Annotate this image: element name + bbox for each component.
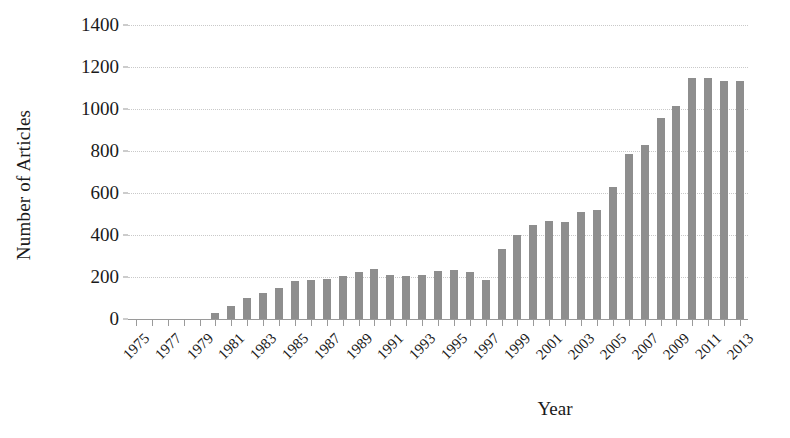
x-tick-label-1993: 1993	[406, 330, 439, 363]
bar-1984	[275, 288, 283, 320]
bar-2002	[561, 222, 569, 319]
x-tick-label-1977: 1977	[152, 330, 185, 363]
x-tick-mark-1977	[168, 320, 169, 326]
x-tick-mark-1999	[517, 320, 518, 326]
x-tick-label-1997: 1997	[469, 330, 502, 363]
x-tick-mark-1994	[438, 320, 439, 326]
bar-2007	[641, 145, 649, 319]
x-tick-mark-1985	[295, 320, 296, 326]
bar-1996	[466, 272, 474, 319]
x-tick-mark-1986	[311, 320, 312, 326]
bar-1981	[227, 306, 235, 319]
bar-2004	[593, 210, 601, 319]
y-tick-label-1200: 1200	[81, 56, 119, 78]
x-tick-label-1979: 1979	[183, 330, 216, 363]
bar-1992	[402, 276, 410, 319]
x-tick-mark-2005	[613, 320, 614, 326]
y-tick-label-0: 0	[110, 308, 120, 330]
bar-2000	[529, 225, 537, 320]
bar-2005	[609, 187, 617, 319]
bar-1985	[291, 281, 299, 319]
plot-area: 0200400600800100012001400	[128, 25, 748, 319]
bar-1994	[434, 271, 442, 319]
bar-2013	[736, 81, 744, 319]
x-tick-label-1991: 1991	[374, 330, 407, 363]
x-tick-label-2011: 2011	[692, 330, 725, 363]
x-tick-label-2005: 2005	[597, 330, 630, 363]
x-tick-mark-2000	[533, 320, 534, 326]
x-tick-mark-1988	[343, 320, 344, 326]
bar-2008	[657, 118, 665, 319]
bar-1983	[259, 293, 267, 319]
bar-1998	[498, 249, 506, 319]
bar-2010	[688, 78, 696, 320]
bar-1991	[386, 275, 394, 319]
x-tick-mark-1978	[184, 320, 185, 326]
x-tick-mark-1987	[327, 320, 328, 326]
x-tick-mark-1996	[470, 320, 471, 326]
x-tick-mark-2001	[549, 320, 550, 326]
x-tick-label-1989: 1989	[342, 330, 375, 363]
x-tick-mark-1997	[486, 320, 487, 326]
bar-2001	[545, 221, 553, 319]
x-tick-mark-2003	[581, 320, 582, 326]
bar-series	[128, 25, 748, 319]
bar-2006	[625, 154, 633, 319]
x-tick-mark-1991	[390, 320, 391, 326]
x-tick-mark-1983	[263, 320, 264, 326]
y-tick-label-200: 200	[91, 266, 120, 288]
x-axis-title-text: Year	[537, 398, 572, 419]
x-tick-mark-2012	[724, 320, 725, 326]
bar-1999	[513, 235, 521, 319]
bar-2011	[704, 78, 712, 320]
y-tick-label-400: 400	[91, 224, 120, 246]
x-tick-mark-2010	[692, 320, 693, 326]
x-tick-mark-2007	[645, 320, 646, 326]
x-axis: 1975197719791981198319851987198919911993…	[128, 319, 748, 320]
x-tick-mark-1979	[200, 320, 201, 326]
bar-1997	[482, 280, 490, 319]
x-tick-label-2003: 2003	[565, 330, 598, 363]
x-tick-mark-2008	[661, 320, 662, 326]
x-axis-title: Year	[0, 398, 790, 420]
x-tick-label-1999: 1999	[501, 330, 534, 363]
x-tick-label-1987: 1987	[310, 330, 343, 363]
x-tick-mark-1984	[279, 320, 280, 326]
x-tick-label-2013: 2013	[724, 330, 757, 363]
x-tick-mark-2009	[676, 320, 677, 326]
x-tick-label-1995: 1995	[438, 330, 471, 363]
y-tick-label-1000: 1000	[81, 98, 119, 120]
bar-1987	[323, 279, 331, 319]
x-tick-mark-1993	[422, 320, 423, 326]
x-tick-label-1975: 1975	[120, 330, 153, 363]
bar-1989	[355, 272, 363, 319]
x-tick-label-2009: 2009	[660, 330, 693, 363]
x-tick-mark-1975	[136, 320, 137, 326]
x-tick-mark-1990	[374, 320, 375, 326]
bar-1993	[418, 275, 426, 319]
x-tick-mark-1980	[215, 320, 216, 326]
x-tick-label-2007: 2007	[628, 330, 661, 363]
x-tick-mark-2006	[629, 320, 630, 326]
x-tick-label-1983: 1983	[247, 330, 280, 363]
x-tick-mark-2004	[597, 320, 598, 326]
bar-1982	[243, 298, 251, 319]
y-axis-title: Number of Articles	[10, 38, 38, 332]
x-tick-mark-1998	[502, 320, 503, 326]
x-tick-mark-1989	[359, 320, 360, 326]
bar-2009	[672, 106, 680, 319]
bar-2003	[577, 212, 585, 319]
x-tick-label-1981: 1981	[215, 330, 248, 363]
x-tick-mark-1981	[231, 320, 232, 326]
bar-1986	[307, 280, 315, 319]
y-tick-label-1400: 1400	[81, 14, 119, 36]
x-tick-mark-1992	[406, 320, 407, 326]
x-tick-mark-2013	[740, 320, 741, 326]
x-tick-mark-2002	[565, 320, 566, 326]
bar-1988	[339, 276, 347, 319]
bar-2012	[720, 81, 728, 319]
bar-chart-figure: Number of Articles 020040060080010001200…	[0, 0, 790, 438]
bar-1995	[450, 270, 458, 319]
y-tick-label-600: 600	[91, 182, 120, 204]
x-tick-mark-2011	[708, 320, 709, 326]
